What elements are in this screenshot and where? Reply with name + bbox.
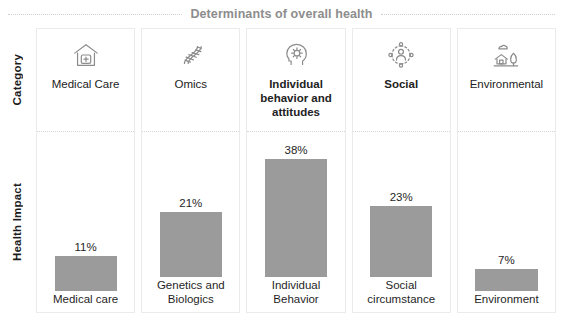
- bar[interactable]: [265, 159, 327, 277]
- category-label: Social: [380, 77, 422, 91]
- bar-category-label: Environment: [472, 293, 541, 307]
- hospital-icon: [71, 37, 101, 73]
- category-label: Individual behavior and attitudes: [247, 77, 344, 119]
- determinant-cards: Medical Care 11% Medical care: [34, 28, 563, 313]
- impact-cell: 7% Environment: [458, 132, 555, 312]
- bar-stack: 11%: [37, 240, 134, 290]
- row-label-health-impact: Health Impact: [0, 132, 34, 313]
- title-rule-right: [381, 14, 555, 15]
- category-label: Omics: [171, 77, 212, 91]
- category-cell: Individual behavior and attitudes: [247, 29, 344, 132]
- category-cell: Social: [353, 29, 450, 132]
- bar-category-label: Genetics and Biologics: [142, 279, 239, 306]
- title-rule-left: [8, 14, 182, 15]
- impact-cell: 21% Genetics and Biologics: [142, 132, 239, 312]
- impact-cell: 23% Social circumstance: [353, 132, 450, 312]
- row-label-category: Category: [0, 28, 34, 132]
- impact-cell: 38% Individual Behavior: [247, 132, 344, 312]
- head-gear-icon: [281, 37, 311, 73]
- bar-value-label: 38%: [284, 143, 307, 157]
- bar-value-label: 23%: [390, 190, 413, 204]
- house-tree-icon: [491, 37, 521, 73]
- social-network-icon: [386, 37, 416, 73]
- row-label-health-impact-text: Health Impact: [11, 183, 23, 261]
- bar[interactable]: [370, 206, 432, 277]
- dna-icon: [176, 37, 206, 73]
- category-cell: Omics: [142, 29, 239, 132]
- category-label: Medical Care: [48, 77, 124, 91]
- impact-cell: 11% Medical care: [37, 132, 134, 312]
- bar[interactable]: [55, 256, 117, 290]
- bar-stack: 38%: [247, 143, 344, 277]
- row-label-category-text: Category: [11, 54, 23, 105]
- page-title: Determinants of overall health: [190, 7, 372, 21]
- category-cell: Medical Care: [37, 29, 134, 132]
- determinant-card-individual-behavior[interactable]: Individual behavior and attitudes 38% In…: [246, 28, 345, 313]
- bar-stack: 23%: [353, 190, 450, 277]
- bar-category-label: Individual Behavior: [247, 279, 344, 306]
- bar-value-label: 21%: [179, 196, 202, 210]
- determinant-card-environmental[interactable]: Environmental 7% Environment: [457, 28, 556, 313]
- determinant-card-omics[interactable]: Omics 21% Genetics and Biologics: [141, 28, 240, 313]
- bar[interactable]: [160, 212, 222, 277]
- bar-category-label: Social circumstance: [353, 279, 450, 306]
- bar[interactable]: [475, 269, 537, 291]
- category-label: Environmental: [466, 77, 548, 91]
- bar-stack: 7%: [458, 253, 555, 291]
- category-cell: Environmental: [458, 29, 555, 132]
- bar-value-label: 11%: [75, 240, 97, 254]
- determinants-board: Category Health Impact Medical Care: [0, 28, 563, 313]
- determinant-card-medical-care[interactable]: Medical Care 11% Medical care: [36, 28, 135, 313]
- bar-stack: 21%: [142, 196, 239, 277]
- row-label-column: Category Health Impact: [0, 28, 34, 313]
- determinant-card-social[interactable]: Social 23% Social circumstance: [352, 28, 451, 313]
- bar-category-label: Medical care: [51, 293, 120, 307]
- chart-title-row: Determinants of overall health: [0, 0, 563, 28]
- bar-value-label: 7%: [498, 253, 515, 267]
